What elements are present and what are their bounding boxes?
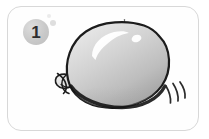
balloon-body [56,22,180,138]
instruction-step-panel: 1 [0,0,209,139]
motion-lines [166,82,185,103]
step-number-label: 1 [31,23,40,40]
bubble-small-icon [47,14,51,18]
step-number-badge: 1 [23,19,49,45]
bubble-medium-icon [50,20,56,26]
